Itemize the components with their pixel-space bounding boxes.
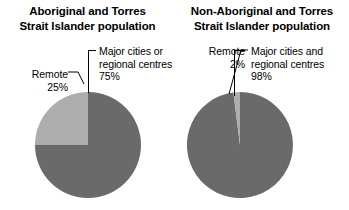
callout-label-line-1: Major cities and — [251, 45, 323, 57]
callout-remote-aboriginal: Remote 25% — [2, 68, 68, 93]
callout-label-line-1: Major cities or — [99, 45, 163, 57]
page-title-non-aboriginal: Non-Aboriginal and Torres Strait Islande… — [175, 4, 349, 33]
callout-label: Remote — [209, 45, 245, 57]
pie-svg-aboriginal — [35, 92, 141, 198]
page-title-aboriginal: Aboriginal and Torres Strait Islander po… — [0, 4, 175, 33]
callout-value: 98% — [251, 70, 349, 83]
callout-label-line-2: regional centres — [99, 58, 175, 71]
pie-chart-figure: Aboriginal and Torres Strait Islander po… — [0, 0, 349, 210]
pie-chart-aboriginal — [35, 92, 141, 198]
callout-label: Remote — [32, 68, 68, 80]
callout-major-cities-aboriginal: Major cities or regional centres 75% — [99, 45, 175, 83]
leader-line-remote — [68, 72, 84, 84]
chart-title-line-1: Aboriginal and Torres — [0, 4, 175, 19]
callout-remote-non-aboriginal: Remote 2% — [187, 45, 245, 70]
chart-panel-non-aboriginal: Non-Aboriginal and Torres Strait Islande… — [175, 0, 349, 210]
callout-label-line-2: regional centres — [251, 58, 349, 71]
callout-value: 25% — [2, 81, 68, 94]
chart-panel-aboriginal: Aboriginal and Torres Strait Islander po… — [0, 0, 175, 210]
callout-value: 75% — [99, 70, 175, 83]
pie-svg-non-aboriginal — [187, 92, 293, 198]
pie-chart-non-aboriginal — [187, 92, 293, 198]
chart-title-line-1: Non-Aboriginal and Torres — [175, 4, 349, 19]
callout-value: 2% — [187, 58, 245, 71]
pie-slice-remote — [35, 92, 88, 145]
chart-title-line-2: Strait Islander population — [0, 19, 175, 34]
chart-title-line-2: Strait Islander population — [175, 19, 349, 34]
leader-line-major-cities — [89, 50, 97, 93]
callout-major-cities-non-aboriginal: Major cities and regional centres 98% — [251, 45, 349, 83]
